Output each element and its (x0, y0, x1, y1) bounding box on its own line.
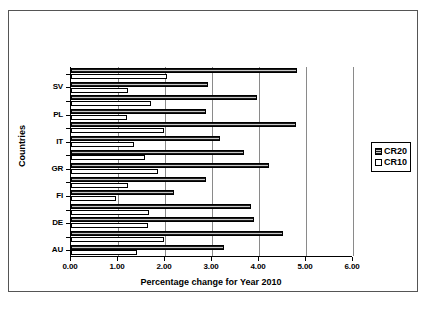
bar-cr10[interactable] (71, 74, 167, 79)
bar-cr20[interactable] (71, 177, 206, 182)
x-tick-label-4.00: 4.00 (238, 262, 278, 271)
bar-cr20[interactable] (71, 82, 208, 87)
legend-label: CR20 (384, 146, 407, 156)
x-tick-mark (117, 257, 118, 261)
bar-cr20[interactable] (71, 190, 174, 195)
x-tick-label-2.00: 2.00 (144, 262, 184, 271)
chart-figure-frame: Countries SVPLITGRFIDEAU 0.001.002.003.0… (8, 10, 418, 292)
legend-label: CR10 (384, 157, 407, 167)
bar-cr20[interactable] (71, 231, 283, 236)
bar-cr20[interactable] (71, 109, 206, 114)
bar-cr10[interactable] (71, 250, 137, 255)
bar-cr20[interactable] (71, 163, 269, 168)
bar-cr10[interactable] (71, 196, 116, 201)
x-tick-mark (70, 257, 71, 261)
x-tick-mark (211, 257, 212, 261)
bar-cr20[interactable] (71, 122, 296, 127)
bar-cr10[interactable] (71, 183, 128, 188)
legend-item-cr10[interactable]: CR10 (375, 157, 407, 167)
x-tick-label-3.00: 3.00 (191, 262, 231, 271)
bar-cr10[interactable] (71, 237, 164, 242)
x-tick-label-1.00: 1.00 (97, 262, 137, 271)
y-tick-label-gr: GR (37, 164, 63, 173)
x-axis-title: Percentage change for Year 2010 (70, 277, 352, 287)
x-tick-label-6.00: 6.00 (332, 262, 372, 271)
legend-swatch-icon (375, 159, 382, 166)
x-tick-label-5.00: 5.00 (285, 262, 325, 271)
bar-cr20[interactable] (71, 204, 251, 209)
bar-series-container (71, 67, 352, 256)
bar-cr10[interactable] (71, 155, 145, 160)
bar-cr20[interactable] (71, 245, 224, 250)
bar-cr10[interactable] (71, 223, 148, 228)
legend-item-cr20[interactable]: CR20 (375, 146, 407, 156)
y-tick-label-de: DE (37, 218, 63, 227)
bar-cr10[interactable] (71, 128, 164, 133)
gridline-6.00 (353, 67, 354, 256)
plot-area (70, 67, 352, 257)
x-tick-mark (258, 257, 259, 261)
bar-cr10[interactable] (71, 169, 158, 174)
x-tick-mark (305, 257, 306, 261)
y-tick-label-it: IT (37, 137, 63, 146)
bar-cr20[interactable] (71, 136, 220, 141)
y-tick-label-au: AU (37, 245, 63, 254)
bar-cr20[interactable] (71, 95, 257, 100)
y-tick-label-pl: PL (37, 110, 63, 119)
bar-cr10[interactable] (71, 115, 127, 120)
bar-cr20[interactable] (71, 68, 297, 73)
y-axis-tick-labels: SVPLITGRFIDEAU (37, 67, 63, 257)
bar-cr20[interactable] (71, 217, 254, 222)
bar-cr10[interactable] (71, 88, 128, 93)
y-tick-label-fi: FI (37, 191, 63, 200)
chart-legend[interactable]: CR20CR10 (371, 142, 411, 172)
bar-cr10[interactable] (71, 101, 151, 106)
x-tick-mark (164, 257, 165, 261)
bar-cr10[interactable] (71, 210, 149, 215)
legend-swatch-icon (375, 148, 382, 155)
x-tick-mark (352, 257, 353, 261)
y-axis-title: Countries (17, 111, 27, 181)
x-tick-label-0.00: 0.00 (50, 262, 90, 271)
bar-cr10[interactable] (71, 142, 134, 147)
bar-cr20[interactable] (71, 150, 244, 155)
y-tick-label-sv: SV (37, 82, 63, 91)
